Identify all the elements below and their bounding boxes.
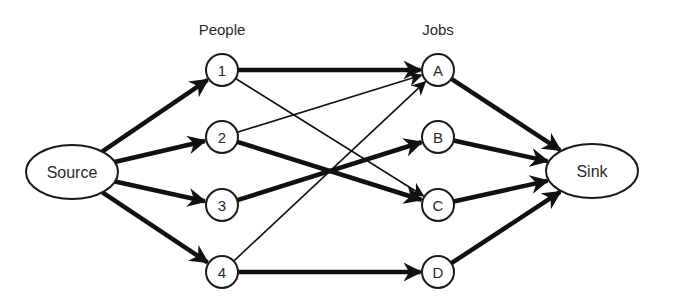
edge-p1-to-jC	[236, 78, 424, 195]
person-label: 2	[218, 129, 226, 146]
edge-source-to-p4	[102, 192, 207, 262]
person-node-4[interactable]: 4	[206, 256, 238, 288]
job-node-c[interactable]: C	[422, 189, 454, 221]
edge-p4-to-jA	[234, 82, 426, 261]
jobs-column-label: Jobs	[422, 21, 454, 38]
source-node[interactable]: Source	[26, 145, 118, 199]
sink-label: Sink	[576, 163, 608, 180]
person-node-2[interactable]: 2	[206, 121, 238, 153]
sink-node[interactable]: Sink	[546, 144, 638, 198]
job-label: A	[433, 62, 443, 79]
person-label: 3	[218, 197, 226, 214]
job-label: B	[433, 129, 443, 146]
edge-p2-to-jA	[237, 75, 421, 132]
edge-jD-to-sink	[451, 192, 560, 263]
person-node-1[interactable]: 1	[206, 54, 238, 86]
job-label: C	[433, 197, 444, 214]
person-label: 4	[218, 264, 226, 281]
edge-jB-to-sink	[454, 140, 548, 161]
edge-source-to-p3	[115, 181, 205, 201]
job-node-b[interactable]: B	[422, 121, 454, 153]
person-node-3[interactable]: 3	[206, 189, 238, 221]
flow-network-diagram: People Jobs Source Sink 1 2 3 4 A B C	[0, 0, 675, 305]
edge-source-to-p2	[115, 141, 205, 162]
edge-jA-to-sink	[451, 79, 560, 150]
person-label: 1	[218, 62, 226, 79]
people-column-label: People	[199, 21, 246, 38]
edges-layer	[102, 70, 560, 272]
job-node-d[interactable]: D	[422, 256, 454, 288]
edge-source-to-p1	[102, 80, 207, 152]
job-label: D	[433, 264, 444, 281]
job-node-a[interactable]: A	[422, 54, 454, 86]
source-label: Source	[47, 164, 98, 181]
edge-jC-to-sink	[454, 181, 548, 202]
